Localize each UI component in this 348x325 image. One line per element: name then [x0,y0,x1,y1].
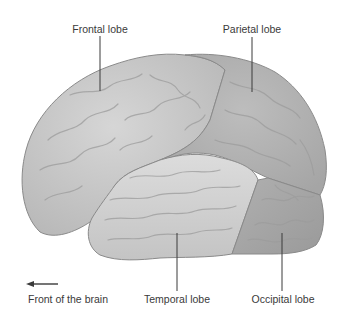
frontal-lobe-label: Frontal lobe [72,23,127,35]
brain-illustration [0,0,348,325]
brain-diagram: Frontal lobe Parietal lobe Front of the … [0,0,348,325]
occipital-lobe-label: Occipital lobe [251,293,314,305]
arrow-left-icon [26,281,58,287]
front-of-brain-label: Front of the brain [28,293,108,305]
parietal-lobe-label: Parietal lobe [223,23,281,35]
temporal-lobe-label: Temporal lobe [144,293,210,305]
